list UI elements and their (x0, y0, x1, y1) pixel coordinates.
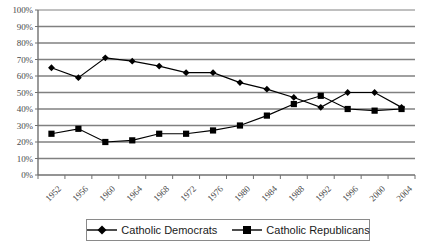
chart-container: 100%90%80%70%60%50%40%30%20%10%0% 195219… (0, 0, 424, 246)
square-marker-icon (231, 224, 263, 236)
legend-item-catholic-democrats: Catholic Democrats (86, 224, 217, 236)
legend-item-catholic-republicans: Catholic Republicans (231, 224, 369, 236)
diamond-marker-icon (86, 224, 118, 236)
chart-legend: Catholic Democrats Catholic Republicans (86, 219, 370, 241)
legend-label: Catholic Republicans (266, 225, 369, 236)
x-axis-labels: 1952195619601964196819721976198019841988… (0, 0, 424, 246)
x-axis-tick-label: 1952 (15, 184, 64, 233)
legend-label: Catholic Democrats (121, 225, 217, 236)
